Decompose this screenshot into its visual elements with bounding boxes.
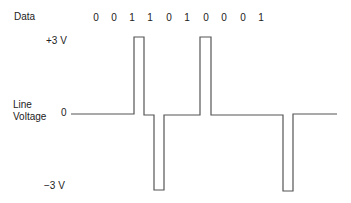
line-voltage-trace (71, 37, 337, 191)
waveform (0, 0, 351, 203)
